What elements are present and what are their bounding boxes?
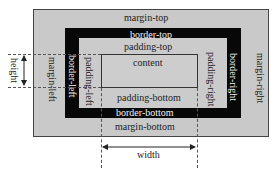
dimension-arrows xyxy=(0,0,274,176)
